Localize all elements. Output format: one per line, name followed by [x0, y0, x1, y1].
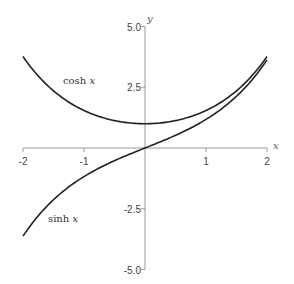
y-tick-label: 2.5: [127, 82, 141, 93]
x-ticks: -2-112: [19, 148, 271, 167]
x-tick-label: -1: [80, 156, 89, 167]
y-tick-label: 5.0: [127, 22, 141, 33]
x-axis-label: x: [273, 140, 279, 151]
x-tick-label: -2: [19, 156, 28, 167]
plot-area: -2-112 5.02.5-2.5-5.0 x y cosh x sinh x: [0, 0, 294, 284]
y-tick-label: -5.0: [124, 265, 142, 276]
y-tick-label: -2.5: [124, 204, 142, 215]
cosh-label: cosh x: [63, 75, 95, 86]
sinh-label: sinh x: [48, 213, 78, 224]
y-axis-label: y: [146, 13, 153, 24]
x-tick-label: 2: [264, 156, 270, 167]
x-tick-label: 1: [203, 156, 209, 167]
